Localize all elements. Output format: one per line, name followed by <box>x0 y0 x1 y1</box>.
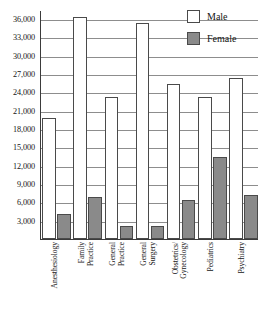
bar-group <box>134 5 165 239</box>
bars-layer <box>41 11 258 239</box>
y-axis-tick-label: 21,000 <box>13 108 35 116</box>
y-axis-tick-label: 30,000 <box>13 53 35 61</box>
x-axis-category-label: Obstetrics/Gynecology <box>165 242 196 308</box>
y-axis: 3,0006,0009,00012,00015,00018,00021,0002… <box>0 0 38 248</box>
bar-male <box>73 17 87 239</box>
legend-item-female: Female <box>187 32 236 45</box>
y-axis-tick-label: 12,000 <box>13 163 35 171</box>
y-axis-tick-label: 18,000 <box>13 126 35 134</box>
bar-female <box>182 200 196 239</box>
y-axis-tick-label: 33,000 <box>13 34 35 42</box>
x-axis-category-line: Surgery <box>149 242 158 266</box>
y-axis-tick-label: 3,000 <box>17 218 35 226</box>
bar-female <box>151 226 165 239</box>
x-axis-category-line: Practice <box>118 242 127 266</box>
x-axis-category-line: Gynecology <box>180 242 189 279</box>
legend-label: Female <box>207 34 236 44</box>
x-axis-category-label: Psychiatry <box>227 242 258 308</box>
x-axis-category-label: GeneralPractice <box>102 242 133 308</box>
legend: MaleFemale <box>181 10 265 45</box>
x-axis-category-line: Practice <box>87 242 96 266</box>
legend-item-male: Male <box>187 10 228 23</box>
y-axis-tick-label: 9,000 <box>17 181 35 189</box>
x-axis-category-label: FamilyPractice <box>71 242 102 308</box>
bar-female <box>57 214 71 239</box>
bar-female <box>120 226 134 239</box>
x-axis-category-label: Anesthesiology <box>40 242 71 308</box>
y-axis-tick-label: 36,000 <box>13 16 35 24</box>
bar-group <box>72 5 103 239</box>
bar-female <box>213 157 227 239</box>
legend-swatch-male <box>187 10 200 23</box>
bar-female <box>88 197 102 239</box>
legend-label: Male <box>207 12 228 22</box>
plot-area <box>40 11 258 240</box>
y-axis-tick-label: 15,000 <box>13 144 35 152</box>
bar-male <box>198 97 212 239</box>
bar-male <box>167 84 181 239</box>
bar-male <box>105 97 119 239</box>
x-axis-category-label: Pediatrics <box>196 242 227 308</box>
bar-male <box>42 118 56 239</box>
bar-group <box>103 5 134 239</box>
x-axis: AnesthesiologyFamilyPracticeGeneralPract… <box>40 242 258 310</box>
y-axis-tick-label: 6,000 <box>17 199 35 207</box>
bar-group <box>41 5 72 239</box>
y-axis-tick-label: 24,000 <box>13 89 35 97</box>
x-axis-category-label: GeneralSurgery <box>133 242 164 308</box>
bar-male <box>136 23 150 239</box>
y-axis-tick-label: 27,000 <box>13 71 35 79</box>
legend-swatch-female <box>187 32 200 45</box>
x-axis-category-line: Pediatrics <box>207 242 216 271</box>
x-axis-category-line: Psychiatry <box>238 242 247 274</box>
bar-male <box>229 78 243 239</box>
x-axis-category-line: Anesthesiology <box>51 242 60 289</box>
bar-chart: 3,0006,0009,00012,00015,00018,00021,0002… <box>0 0 267 310</box>
bar-female <box>244 195 258 239</box>
